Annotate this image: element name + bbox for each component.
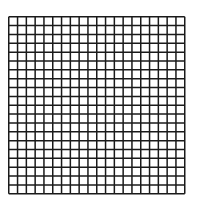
square-grid <box>8 16 186 195</box>
canvas <box>0 0 200 214</box>
